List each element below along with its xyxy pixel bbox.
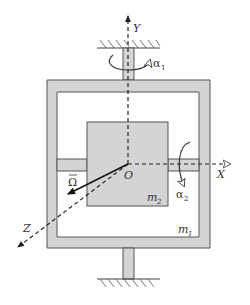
- bottom-shaft: [123, 248, 134, 279]
- omega-label: Ω: [68, 175, 77, 189]
- svg-text:m: m: [178, 223, 188, 236]
- svg-text:1: 1: [161, 64, 165, 72]
- svg-text:Ω: Ω: [68, 176, 77, 189]
- svg-text:1: 1: [188, 230, 192, 238]
- y-axis-label: Y: [133, 22, 142, 35]
- origin-label: O: [124, 169, 133, 182]
- svg-text:α: α: [176, 188, 184, 201]
- alpha1-label: α 1: [153, 57, 165, 72]
- svg-text:2: 2: [156, 198, 162, 206]
- svg-text:α: α: [153, 57, 161, 70]
- svg-text:m: m: [147, 191, 157, 204]
- bottom-ground: [97, 279, 160, 287]
- right-shaft: [168, 159, 199, 171]
- left-shaft: [57, 159, 87, 171]
- svg-text:2: 2: [184, 195, 188, 203]
- z-axis-label: Z: [22, 222, 31, 235]
- alpha2-label: α 2: [176, 188, 188, 203]
- m1-label: m 1: [178, 223, 192, 238]
- x-axis-label: X: [216, 168, 226, 181]
- gimbal-diagram: Y X Z O α 1 α 2 Ω m 1 m 2: [0, 0, 250, 305]
